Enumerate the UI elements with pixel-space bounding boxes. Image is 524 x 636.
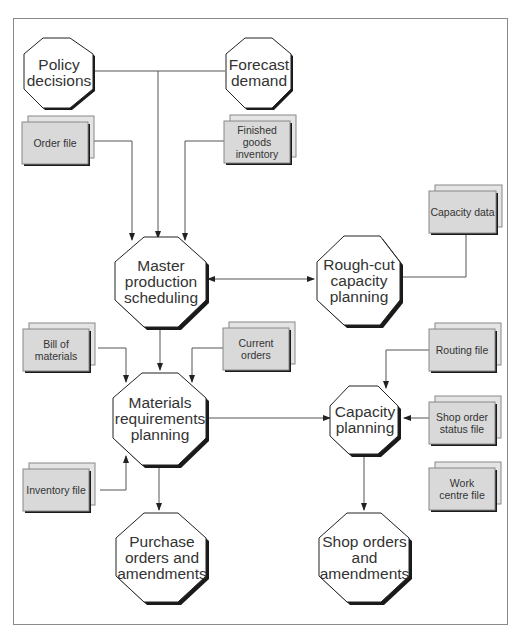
- process-rough-cut-capacity-planning: Rough-cut capacity planning: [319, 240, 399, 322]
- process-shop-orders: Shop orders and amendments: [321, 516, 408, 600]
- process-forecast-demand: Forecast demand: [227, 40, 291, 106]
- process-materials-requirements-planning: Materials requirements planning: [115, 376, 205, 462]
- file-current-orders: Current orders: [223, 328, 289, 370]
- file-routing-file: Routing file: [429, 329, 495, 371]
- file-shapes: [22, 115, 502, 513]
- file-order-file: Order file: [22, 122, 88, 164]
- process-policy-decisions: Policy decisions: [26, 40, 92, 106]
- file-capacity-data: Capacity data: [429, 191, 496, 233]
- file-inventory-file: Inventory file: [23, 469, 89, 511]
- file-shop-order-status: Shop order status file: [429, 402, 495, 444]
- file-finished-goods-inventory: Finished goods inventory: [224, 121, 290, 163]
- file-work-centre-file: Work centre file: [429, 468, 495, 510]
- process-master-production-scheduling: Master production scheduling: [117, 240, 205, 324]
- process-purchase-orders: Purchase orders and amendments: [117, 516, 207, 600]
- process-capacity-planning: Capacity planning: [332, 388, 398, 452]
- file-bill-of-materials: Bill of materials: [23, 329, 89, 371]
